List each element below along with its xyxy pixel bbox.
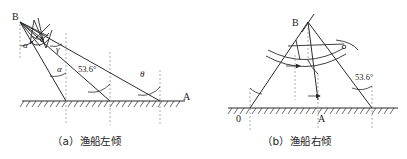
angle-arcs-b	[250, 60, 372, 94]
label-point-a-b: A	[318, 113, 326, 124]
deck-curve-inner	[268, 48, 344, 60]
ground-hatching-a	[20, 101, 180, 107]
label-point-b-a: B	[12, 11, 19, 22]
rays-from-b-a	[20, 22, 160, 101]
caption-panel-b: （b）渔船右倾	[262, 133, 331, 148]
label-53-6-b: 53.6°	[355, 72, 373, 82]
label-theta: θ	[140, 69, 145, 79]
label-point-b-b: B	[292, 17, 299, 28]
figure-root: B A α γ α θ 53.6°	[0, 0, 407, 159]
arc-theta	[138, 87, 160, 95]
label-alpha-upper: α	[23, 40, 28, 50]
ground-hatching-b	[228, 108, 394, 114]
label-point-a-a: A	[183, 91, 191, 102]
caption-panel-a: （a）渔船左倾	[52, 133, 121, 148]
label-53-6-a: 53.6°	[78, 64, 96, 74]
arc-53-6-b	[352, 86, 372, 90]
panel-a-drawing: B A α γ α θ 53.6°	[12, 11, 191, 125]
label-point-o-b: 0	[236, 113, 241, 124]
label-gamma: γ	[56, 44, 60, 54]
triangle-sides-b	[250, 14, 372, 108]
panel-b-drawing: B 0 A 53.6°	[228, 14, 398, 130]
deck-curve-outer	[266, 54, 346, 67]
label-alpha-lower: α	[57, 64, 62, 74]
